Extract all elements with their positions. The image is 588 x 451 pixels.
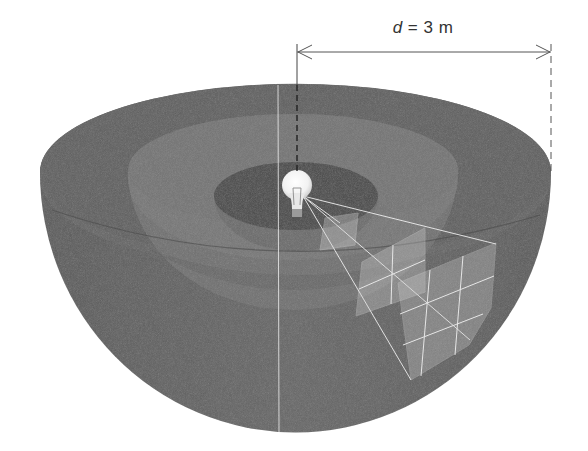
dimension-variable: d [393, 18, 403, 37]
dimension-value: 3 [424, 18, 434, 37]
dimension-label: d = 3 m [363, 18, 483, 38]
grid-patch-inner [320, 213, 358, 250]
inverse-square-diagram: d = 3 m [0, 0, 588, 451]
dimension-arrow [297, 45, 551, 59]
dimension-equals: = [408, 18, 418, 37]
dimension-unit: m [439, 18, 454, 37]
diagram-canvas [0, 0, 588, 451]
